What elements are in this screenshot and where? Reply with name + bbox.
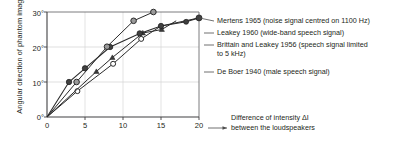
legend-entry-de-boer-1940: De Boer 1940 (male speech signal): [217, 68, 330, 77]
legend-entry-mertens-1965: Mertens 1965 (noise signal centred on 11…: [217, 17, 370, 26]
grid-lines-vertical: [85, 12, 161, 117]
x-axis-arrow: [208, 126, 227, 130]
legend-leader-lines: [199, 18, 214, 72]
chart-figure: Angular direction of phantom image 30° 2…: [0, 0, 420, 154]
x-axis-caption-line2: between the loudspeakers: [231, 123, 315, 132]
series-brittain-leakey-1956: [47, 21, 176, 117]
legend-entry-brittain-leakey-1956-cont: to 5 kHz): [217, 50, 246, 59]
x-axis-caption-line1: Difference of intensity ΔI: [231, 113, 309, 122]
axis-ticks: [44, 12, 199, 120]
series-mertens-1965: [47, 9, 156, 117]
legend-entry-leakey-1960: Leakey 1960 (wide-band speech signal): [217, 29, 344, 38]
